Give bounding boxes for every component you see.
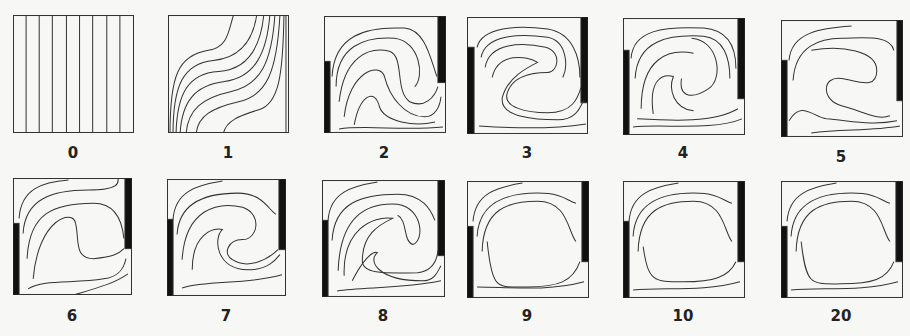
contour-plot-2 [324, 16, 446, 133]
panel-label-3: 3 [497, 144, 557, 162]
contour-plot-0 [13, 15, 134, 133]
contour-plot-20 [781, 181, 903, 298]
panel-6 [13, 178, 132, 295]
contour-plot-8 [322, 180, 445, 297]
panel-label-1: 1 [198, 144, 258, 162]
contour-plot-3 [467, 17, 588, 134]
contour-plot-10 [623, 181, 745, 298]
panel-label-6: 6 [42, 307, 102, 325]
panel-2 [324, 16, 446, 133]
contour-plot-6 [13, 178, 132, 295]
panel-label-10: 10 [653, 307, 713, 325]
contour-plot-9 [467, 181, 589, 298]
panel-label-5: 5 [811, 148, 871, 166]
panel-label-4: 4 [653, 144, 713, 162]
panel-label-9: 9 [497, 307, 557, 325]
contour-plot-7 [167, 179, 286, 296]
contour-plot-5 [781, 20, 903, 137]
panel-9 [467, 181, 589, 298]
contour-plot-1 [168, 15, 289, 133]
panel-label-2: 2 [354, 144, 414, 162]
panel-label-7: 7 [196, 307, 256, 325]
panel-4 [623, 18, 745, 135]
contour-plot-4 [623, 18, 745, 135]
panel-7 [167, 179, 286, 296]
panel-3 [467, 17, 588, 134]
panel-label-8: 8 [353, 307, 413, 325]
panel-label-20: 20 [811, 307, 871, 325]
panel-0 [13, 15, 134, 133]
panel-1 [168, 15, 289, 133]
panel-10 [623, 181, 745, 298]
panel-label-0: 0 [43, 144, 103, 162]
panel-20 [781, 181, 903, 298]
panel-5 [781, 20, 903, 137]
panel-8 [322, 180, 445, 297]
